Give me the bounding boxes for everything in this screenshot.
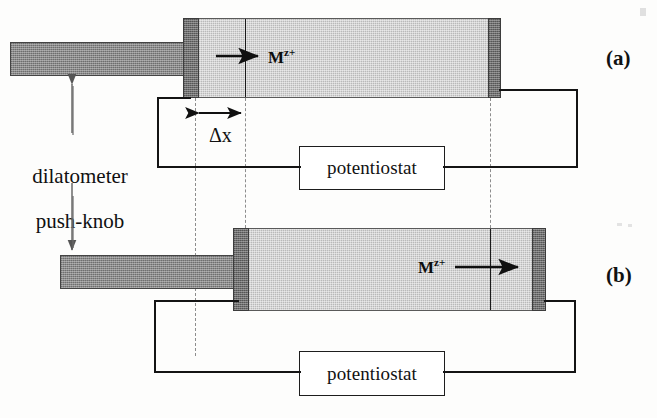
push-knob-annotation-line1: dilatometer [32, 164, 128, 188]
ion-species-label-a: Mz+ [268, 46, 295, 68]
scan-artifact [640, 8, 646, 16]
push-knob-annotation: dilatometer push-knob [4, 142, 156, 233]
projection-guide-left [195, 98, 196, 356]
working-electrode-a [183, 18, 199, 98]
electrode-interface-line-b [490, 229, 491, 310]
panel-label-a: (a) [606, 46, 631, 71]
wire-right-vertical-a [576, 89, 578, 168]
wire-left-bottom-b [154, 371, 301, 373]
wire-left-vertical-b [154, 300, 156, 373]
wire-left-top-b [154, 300, 239, 302]
wire-left-bottom-a [157, 166, 301, 168]
projection-guide-interface [245, 98, 246, 228]
wire-right-bottom-a [443, 166, 578, 168]
scan-artifact [628, 224, 632, 227]
electrode-interface-line-a [245, 19, 246, 97]
figure-canvas: Mz+ potentiostat (a) Δx dilatometer push… [0, 0, 657, 418]
potentiostat-box-b[interactable]: potentiostat [299, 351, 445, 396]
projection-guide-right [490, 98, 491, 228]
ion-species-label-b: Mz+ [418, 256, 445, 278]
wire-right-top-b [544, 300, 576, 302]
push-knob-annotation-line2: push-knob [36, 209, 125, 233]
electrochemical-cell-body-b [233, 228, 546, 311]
potentiostat-box-a[interactable]: potentiostat [299, 146, 445, 190]
dilatometer-push-knob-rod-a [10, 42, 190, 76]
counter-electrode-b [532, 228, 546, 311]
wire-right-top-a [499, 89, 578, 91]
working-electrode-b [233, 228, 249, 311]
panel-label-b: (b) [606, 263, 632, 288]
wire-right-vertical-b [574, 300, 576, 373]
ion-species-symbol-b: M [418, 258, 434, 277]
potentiostat-label-b: potentiostat [327, 363, 417, 385]
ion-species-symbol-a: M [268, 48, 284, 67]
electrochemical-cell-body-a [183, 18, 501, 98]
potentiostat-label-a: potentiostat [327, 157, 417, 179]
wire-left-vertical-a [157, 97, 159, 166]
counter-electrode-a [488, 18, 501, 98]
scan-artifact [617, 223, 622, 226]
dilatometer-push-knob-rod-b [60, 255, 240, 289]
wire-left-top-a [157, 97, 191, 99]
ion-species-charge-a: z+ [284, 46, 295, 58]
displacement-label: Δx [209, 124, 232, 147]
ion-species-charge-b: z+ [434, 256, 445, 268]
wire-right-bottom-b [443, 371, 576, 373]
